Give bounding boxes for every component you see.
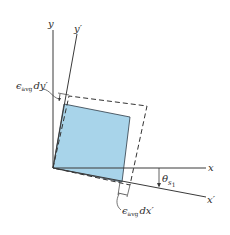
angle-arrowhead-icon (157, 183, 161, 188)
angle-theta-label: θs1 (162, 173, 175, 188)
x-prime-axis-label: x′ (207, 194, 216, 205)
y-axis-label: y (47, 18, 54, 29)
dx-dimension-tick (118, 193, 127, 195)
strain-diagram: y y′ x x′ θs1 ϵavgdy′ ϵavgdx′ (0, 0, 230, 235)
dy-arrowhead-icon (58, 98, 61, 101)
dx-extension-line-2 (127, 185, 130, 197)
x-prime-axis (53, 168, 206, 197)
x-axis-label: x (208, 162, 214, 173)
epsilon-avg-dy-label: ϵavgdy′ (16, 80, 48, 93)
dx-leader-line (117, 194, 121, 210)
y-prime-axis-label: y′ (73, 23, 83, 34)
epsilon-avg-dx-label: ϵavgdx′ (122, 205, 154, 218)
